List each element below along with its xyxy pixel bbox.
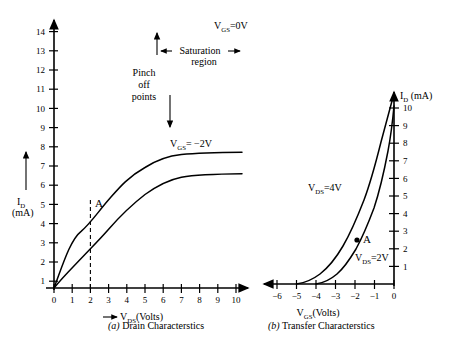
right-y-tick-label: 9 bbox=[403, 121, 408, 131]
left-y-tick-label: 7 bbox=[41, 161, 46, 171]
right-y-tick-label: 1 bbox=[403, 262, 408, 272]
left-y-tick-label: 10 bbox=[36, 104, 46, 114]
right-y-tick-label: 8 bbox=[403, 138, 408, 148]
right-x-axis-title: VGS(Volts) bbox=[297, 307, 340, 320]
right-x-tick-label: −4 bbox=[311, 291, 321, 301]
left-y-tick-label: 5 bbox=[41, 200, 46, 210]
right-x-tick-label: −1 bbox=[370, 291, 380, 301]
right-point-a-marker bbox=[354, 237, 359, 242]
left-y-tick-label: 13 bbox=[36, 46, 46, 56]
left-curve-label-vgs-0v: VGS=0V bbox=[214, 20, 249, 33]
right-curve-label-vds-4v: VDS=4V bbox=[308, 182, 343, 195]
right-x-tick-labels: −6 −5 −4 −3 −2 −1 0 bbox=[272, 291, 397, 301]
left-y-tick-label: 4 bbox=[41, 219, 46, 229]
right-y-tick-label: 5 bbox=[403, 191, 408, 201]
left-x-tick-labels: 0 1 2 3 4 5 6 7 8 9 10 bbox=[52, 295, 241, 305]
right-y-tick-label: 3 bbox=[403, 226, 408, 236]
right-chart: 1 2 3 4 5 6 7 8 9 10 −6 −5 −4 −3 −2 bbox=[264, 90, 432, 332]
left-x-tick-label: 3 bbox=[106, 295, 111, 305]
right-y-tick-label: 4 bbox=[403, 209, 408, 219]
right-y-tick-labels: 1 2 3 4 5 6 7 8 9 10 bbox=[403, 103, 413, 271]
left-x-tick-label: 6 bbox=[161, 295, 166, 305]
left-y-tick-label: 8 bbox=[41, 142, 46, 152]
right-x-tick-label: −6 bbox=[272, 291, 282, 301]
right-y-axis-title: ID (mA) bbox=[400, 90, 432, 103]
left-chart-caption: (a) Drain Characterstics bbox=[108, 320, 204, 332]
left-y-tick-labels: 1 2 3 4 5 6 7 8 9 10 11 12 13 14 bbox=[36, 27, 46, 287]
left-x-tick-label: 9 bbox=[216, 295, 221, 305]
left-y-tick-label: 2 bbox=[41, 257, 46, 267]
right-x-tick-label: 0 bbox=[392, 291, 397, 301]
left-y-tick-label: 12 bbox=[36, 65, 45, 75]
left-x-tick-label: 0 bbox=[52, 295, 57, 305]
saturation-label-line1: Saturation bbox=[179, 45, 220, 56]
left-x-tick-label: 5 bbox=[143, 295, 148, 305]
right-chart-caption: (b) Transfer Characterstics bbox=[268, 320, 375, 332]
jfet-characteristics-figure: 1 2 3 4 5 6 7 8 9 10 11 12 13 14 bbox=[0, 0, 449, 345]
pinch-off-label-line2: off bbox=[138, 79, 150, 90]
left-x-tick-label: 2 bbox=[88, 295, 93, 305]
right-curve-label-vds-2v: VDS=2V bbox=[355, 252, 390, 265]
right-point-a-label: A bbox=[363, 233, 371, 245]
left-x-tick-label: 7 bbox=[179, 295, 184, 305]
right-x-tick-label: −5 bbox=[292, 291, 302, 301]
right-y-tick-label: 6 bbox=[403, 174, 408, 184]
pinch-off-label-line3: points bbox=[132, 91, 157, 102]
left-y-tick-label: 9 bbox=[41, 123, 46, 133]
left-x-tick-label: 8 bbox=[197, 295, 202, 305]
left-point-a-label: A bbox=[95, 197, 103, 209]
left-y-tick-label: 3 bbox=[41, 238, 46, 248]
right-y-tick-label: 7 bbox=[403, 156, 408, 166]
left-chart: 1 2 3 4 5 6 7 8 9 10 11 12 13 14 bbox=[12, 20, 249, 332]
right-y-tick-label: 2 bbox=[403, 244, 408, 254]
left-curve-vgs-0v bbox=[54, 152, 242, 288]
left-curve-label-vgs-neg2v: VGS= −2V bbox=[170, 138, 213, 151]
figure-canvas: 1 2 3 4 5 6 7 8 9 10 11 12 13 14 bbox=[0, 0, 449, 345]
left-x-tick-label: 1 bbox=[70, 295, 75, 305]
left-y-tick-label: 14 bbox=[36, 27, 46, 37]
right-x-tick-label: −2 bbox=[350, 291, 360, 301]
left-x-tick-label: 4 bbox=[125, 295, 130, 305]
left-y-tick-label: 6 bbox=[41, 180, 46, 190]
left-y-tick-label: 11 bbox=[36, 84, 45, 94]
saturation-label-line2: region bbox=[191, 56, 217, 67]
left-x-tick-label: 10 bbox=[232, 295, 242, 305]
pinch-off-label-line1: Pinch bbox=[133, 67, 156, 78]
right-x-tick-label: −3 bbox=[331, 291, 341, 301]
right-y-tick-label: 10 bbox=[403, 103, 413, 113]
left-y-tick-label: 1 bbox=[41, 276, 46, 286]
left-y-axis-units: (mA) bbox=[12, 207, 34, 219]
